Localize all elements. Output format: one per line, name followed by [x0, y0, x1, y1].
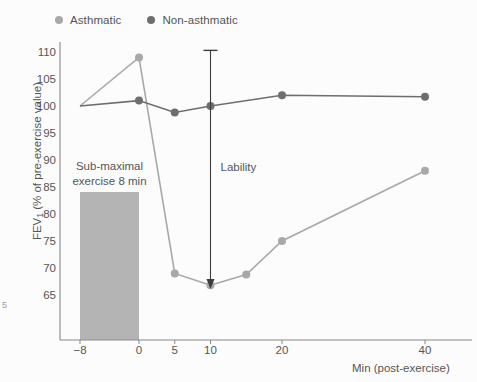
chart-plot-svg	[0, 0, 477, 382]
data-point	[135, 97, 143, 105]
annotation-layer	[204, 50, 218, 289]
lability-label: Lability	[217, 160, 261, 174]
data-point	[171, 269, 179, 277]
data-point	[135, 53, 143, 61]
data-point	[421, 167, 429, 175]
data-point	[171, 108, 179, 116]
data-point	[421, 93, 429, 101]
chart-figure: Asthmatic Non-asthmatic FEV1 (% of pre-e…	[0, 0, 477, 382]
series-line-non-asthmatic	[80, 95, 425, 112]
data-point	[278, 91, 286, 99]
data-point	[278, 237, 286, 245]
data-point	[242, 270, 250, 278]
axis-tick-marks	[80, 340, 425, 344]
plot-frame	[60, 42, 472, 340]
